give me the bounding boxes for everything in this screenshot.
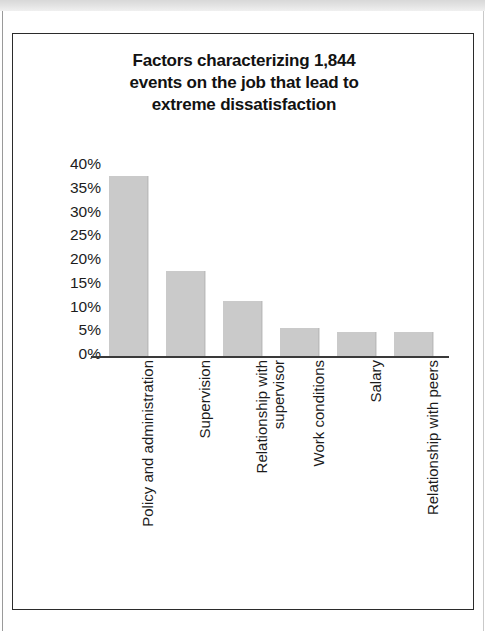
y-axis-tick-30: 30% [47,204,101,220]
page-right-edge [483,11,484,631]
x-axis-label-5: Salary [367,360,384,560]
y-axis-tick-10: 10% [47,299,101,315]
x-axis-label-6: Relationship with peers [424,360,441,560]
bar-1 [109,176,147,357]
x-axis-label-2: Supervision [196,360,213,560]
bar-2 [166,271,204,357]
y-axis-tick-35: 35% [47,180,101,196]
y-axis-tick-20: 20% [47,251,101,267]
x-axis-label-1: Policy and administration [139,360,156,560]
x-axis-baseline [91,356,449,358]
bar-3 [223,301,261,356]
bar-4 [280,328,318,357]
y-axis-tick-0: 0% [47,346,101,362]
scan-top-band [0,0,485,11]
bar-6 [394,332,432,356]
plot-area [109,166,439,356]
y-axis-tick-15: 15% [47,275,101,291]
y-axis-tick-40: 40% [47,156,101,172]
x-axis-label-3: Relationship with supervisor [253,360,287,560]
y-axis-tick-5: 5% [47,322,101,338]
bar-5 [337,332,375,356]
chart-title: Factors characterizing 1,844 events on t… [13,50,475,116]
y-axis-tick-25: 25% [47,227,101,243]
x-axis-label-4: Work conditions [310,360,327,560]
chart-figure-frame: Factors characterizing 1,844 events on t… [12,33,474,610]
page-left-edge [2,11,3,631]
x-axis-category-labels: Policy and administrationSupervisionRela… [109,360,449,608]
